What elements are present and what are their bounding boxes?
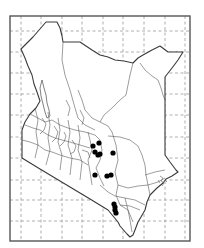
occurrence-marker	[96, 140, 101, 145]
occurrence-marker	[97, 151, 102, 156]
occurrence-marker	[110, 150, 115, 155]
occurrence-marker	[108, 172, 113, 177]
country-outline	[21, 22, 183, 237]
map-canvas	[0, 0, 204, 248]
occurrence-marker	[92, 172, 97, 177]
occurrence-marker	[113, 210, 118, 215]
distribution-map	[0, 0, 204, 248]
occurrence-marker	[90, 143, 95, 148]
